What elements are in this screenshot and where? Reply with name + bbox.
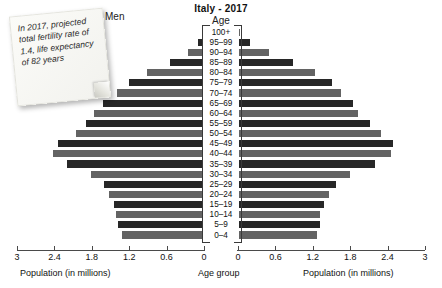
- left-tick-1.8: 1.8: [86, 252, 99, 262]
- bar-women-45–49: [238, 140, 393, 147]
- age-label-50–54: 50–54: [203, 130, 239, 139]
- right-tick-1.8: 1.8: [344, 252, 357, 262]
- age-label-20–24: 20–24: [203, 191, 239, 200]
- age-label-80–84: 80–84: [203, 69, 239, 78]
- bar-women-70–74: [238, 89, 341, 96]
- bar-women-25–29: [238, 181, 336, 188]
- bar-women-90–94: [238, 49, 269, 56]
- age-label-0–4: 0–4: [203, 232, 239, 241]
- left-tick-1.2-mark: [129, 246, 130, 250]
- age-label-10–14: 10–14: [203, 211, 239, 220]
- age-label-15–19: 15–19: [203, 201, 239, 210]
- right-tick-1.2-mark: [313, 246, 314, 250]
- age-label-60–64: 60–64: [203, 110, 239, 119]
- right-tick-3: 3: [422, 252, 427, 262]
- age-label-25–29: 25–29: [203, 181, 239, 190]
- sticky-note-text: In 2017, projected total fertility rate …: [17, 15, 102, 69]
- age-label-55–59: 55–59: [203, 120, 239, 129]
- bar-men-0–4: [122, 231, 204, 238]
- bar-men-75–79: [129, 79, 204, 86]
- left-tick-0.6-mark: [167, 246, 168, 250]
- center-axis-caption: Age group: [198, 268, 240, 278]
- bar-women-80–84: [238, 69, 315, 76]
- bar-women-30–34: [238, 171, 350, 178]
- bar-women-15–19: [238, 201, 324, 208]
- right-axis-line: [237, 250, 425, 251]
- bar-men-40–44: [53, 150, 204, 157]
- bar-men-55–59: [86, 120, 204, 127]
- bar-women-55–59: [238, 120, 370, 127]
- age-label-75–79: 75–79: [203, 79, 239, 88]
- left-tick-2.4-mark: [54, 246, 55, 250]
- left-axis-caption: Population (in millions): [20, 268, 111, 278]
- age-label-95–99: 95–99: [203, 39, 239, 48]
- bar-men-45–49: [58, 140, 204, 147]
- bar-men-20–24: [109, 191, 204, 198]
- age-label-85–89: 85–89: [203, 59, 239, 68]
- left-tick-3-mark: [17, 246, 18, 250]
- bar-women-5–9: [238, 221, 320, 228]
- age-label-30–34: 30–34: [203, 171, 239, 180]
- bar-men-60–64: [94, 110, 204, 117]
- bar-men-10–14: [116, 211, 205, 218]
- left-tick-0.6: 0.6: [160, 252, 173, 262]
- bar-men-65–69: [103, 100, 204, 107]
- right-axis-caption: Population (in millions): [303, 268, 394, 278]
- population-pyramid-chart: Italy - 2017 Age Men 100+95–9990–9485–89…: [0, 0, 442, 288]
- age-label-35–39: 35–39: [203, 161, 239, 170]
- right-tick-1.2: 1.2: [307, 252, 320, 262]
- bar-women-10–14: [238, 211, 320, 218]
- left-tick-2.4: 2.4: [48, 252, 61, 262]
- bar-women-20–24: [238, 191, 329, 198]
- bar-men-5–9: [118, 221, 204, 228]
- bar-women-85–89: [238, 59, 293, 66]
- age-label-45–49: 45–49: [203, 140, 239, 149]
- bar-men-35–39: [67, 160, 204, 167]
- bar-men-85–89: [170, 59, 204, 66]
- right-tick-0: 0: [235, 252, 240, 262]
- left-axis-line: [17, 250, 205, 251]
- left-tick-1.8-mark: [92, 246, 93, 250]
- age-label-100+: 100+: [203, 29, 239, 38]
- right-tick-0.6-mark: [275, 246, 276, 250]
- bar-women-95–99: [238, 39, 250, 46]
- right-tick-0.6: 0.6: [269, 252, 282, 262]
- age-label-5–9: 5–9: [203, 221, 239, 230]
- bar-women-0–4: [238, 231, 317, 238]
- right-tick-2.4-mark: [388, 246, 389, 250]
- bar-men-80–84: [147, 69, 204, 76]
- bar-women-65–69: [238, 100, 353, 107]
- bar-men-90–94: [188, 49, 204, 56]
- right-tick-3-mark: [425, 246, 426, 250]
- left-tick-0: 0: [201, 252, 206, 262]
- bar-women-60–64: [238, 110, 358, 117]
- right-tick-0-mark: [238, 246, 239, 250]
- sticky-note-curl: [94, 81, 110, 97]
- bar-men-70–74: [117, 89, 204, 96]
- bar-men-30–34: [91, 171, 204, 178]
- age-label-65–69: 65–69: [203, 100, 239, 109]
- bar-women-40–44: [238, 150, 391, 157]
- bar-men-25–29: [104, 181, 204, 188]
- men-series-label: Men: [105, 11, 124, 22]
- right-tick-2.4: 2.4: [381, 252, 394, 262]
- age-label-70–74: 70–74: [203, 90, 239, 99]
- age-label-40–44: 40–44: [203, 150, 239, 159]
- age-label-90–94: 90–94: [203, 49, 239, 58]
- sticky-note-annotation: In 2017, projected total fertility rate …: [9, 8, 111, 107]
- bar-women-75–79: [238, 79, 332, 86]
- left-tick-1.2: 1.2: [123, 252, 136, 262]
- right-tick-1.8-mark: [350, 246, 351, 250]
- left-tick-3: 3: [14, 252, 19, 262]
- bar-women-35–39: [238, 160, 375, 167]
- bar-men-50–54: [76, 130, 204, 137]
- bar-women-50–54: [238, 130, 381, 137]
- left-tick-0-mark: [204, 246, 205, 250]
- bar-men-15–19: [114, 201, 204, 208]
